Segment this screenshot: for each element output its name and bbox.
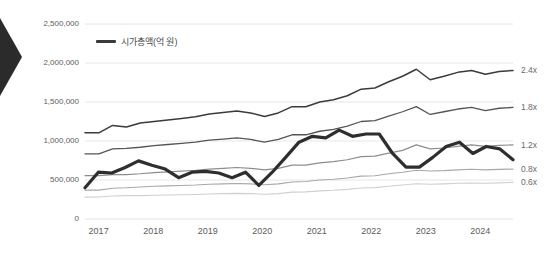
y-tick-1000000: 1,000,000 [43, 136, 79, 145]
x-tick-2022: 2022 [353, 226, 389, 236]
right-label-0.6x: 0.6x [521, 177, 537, 187]
legend-label-market-cap: 시가총액(억 원) [121, 35, 178, 48]
x-tick-2017: 2017 [81, 226, 117, 236]
y-tick-1500000: 1,500,000 [43, 97, 79, 106]
chart-container: 0500,0001,000,0001,500,0002,000,0002,500… [0, 0, 550, 273]
y-tick-2000000: 2,000,000 [43, 58, 79, 67]
legend-swatch-market-cap [96, 40, 116, 43]
x-tick-2023: 2023 [408, 226, 444, 236]
y-tick-0: 0 [75, 214, 79, 223]
right-label-1.8x: 1.8x [521, 102, 537, 112]
chart-legend: 시가총액(억 원) [96, 35, 178, 48]
x-tick-2020: 2020 [244, 226, 280, 236]
series-line-multiple-1.2x [85, 145, 513, 176]
x-tick-2021: 2021 [299, 226, 335, 236]
series-line-multiple-0.6x [85, 182, 513, 197]
x-tick-2018: 2018 [135, 226, 171, 236]
y-tick-2500000: 2,500,000 [43, 19, 79, 28]
right-label-0.8x: 0.8x [521, 164, 537, 174]
series-line-market-cap [85, 130, 513, 188]
x-tick-2024: 2024 [462, 226, 498, 236]
series-line-multiple-2.4x [85, 69, 513, 133]
y-tick-500000: 500,000 [50, 175, 79, 184]
right-label-1.2x: 1.2x [521, 140, 537, 150]
right-label-2.4x: 2.4x [521, 65, 537, 75]
x-tick-2019: 2019 [190, 226, 226, 236]
series-lines [85, 69, 513, 197]
